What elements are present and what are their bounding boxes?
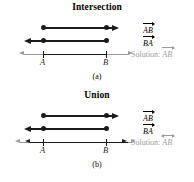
- overarrow-right-icon: [143, 23, 155, 24]
- point-b-dot: [104, 113, 109, 118]
- point-label-a: A: [40, 57, 45, 67]
- solution-arrowhead-left-icon: [25, 139, 30, 143]
- label-ray-ab: AB: [143, 114, 153, 123]
- label-ray-ba-text: BA: [143, 127, 153, 136]
- label-ray-ba-text: BA: [143, 39, 153, 48]
- solution-segment-ab: [43, 54, 106, 55]
- panel-intersection: Intersection A B AB BA Solution: AB (a): [0, 0, 194, 91]
- ray-ba-arrowhead-left-icon: [24, 38, 31, 44]
- segment-ab-glyph: AB: [162, 51, 172, 59]
- solution-arrowhead-left-outer-icon: [15, 139, 20, 143]
- point-b-dot: [104, 25, 109, 30]
- overarrow-right-icon: [143, 36, 155, 37]
- label-ray-ab-text: AB: [143, 114, 153, 123]
- label-solution: Solution: AB: [131, 138, 172, 147]
- point-a-dot: [41, 113, 46, 118]
- label-ray-ba: BA: [143, 127, 153, 136]
- point-a-dot: [41, 25, 46, 30]
- ray-ab-arrowhead-right-icon: [112, 113, 119, 119]
- double-arrow-icon: [162, 135, 174, 136]
- label-solution-text: AB: [162, 138, 172, 147]
- point-a-dot: [41, 126, 46, 131]
- panel-caption-b: (b): [0, 160, 194, 169]
- diagram-row-ray-ab: [0, 22, 194, 34]
- solution-prefix-text: Solution:: [131, 50, 160, 59]
- vector-ba-glyph: BA: [143, 40, 153, 48]
- diagram-row-ray-ba: [0, 123, 194, 135]
- label-ray-ba: BA: [143, 39, 153, 48]
- overbar-icon: [162, 47, 174, 48]
- line-ab-glyph: AB: [162, 139, 172, 147]
- panel-caption-a: (a): [0, 72, 194, 81]
- vector-ab-glyph: AB: [143, 115, 153, 123]
- solution-arrowhead-right-icon: [122, 139, 127, 143]
- point-b-dot: [104, 126, 109, 131]
- label-solution: Solution: AB: [131, 50, 172, 59]
- overarrow-right-icon: [143, 124, 155, 125]
- point-a-dot: [41, 38, 46, 43]
- label-ray-ab-text: AB: [143, 26, 153, 35]
- panel-title-union: Union: [0, 90, 194, 100]
- diagram-row-ray-ab: [0, 110, 194, 122]
- point-b-dot: [104, 38, 109, 43]
- point-label-b: B: [103, 57, 108, 67]
- panel-title-intersection: Intersection: [0, 2, 194, 12]
- point-label-b: B: [103, 145, 108, 155]
- vector-ba-glyph: BA: [143, 128, 153, 136]
- overarrow-right-icon: [143, 111, 155, 112]
- diagram-row-ray-ba: [0, 35, 194, 47]
- vector-ab-glyph: AB: [143, 27, 153, 35]
- label-solution-text: AB: [162, 50, 172, 59]
- panel-union: Union A B AB BA Solution: AB (b): [0, 88, 194, 182]
- solution-prefix-text: Solution:: [131, 138, 160, 147]
- solution-arrowhead-left-icon: [19, 51, 24, 55]
- point-label-a: A: [40, 145, 45, 155]
- ray-ab-arrowhead-right-icon: [112, 25, 119, 31]
- solution-line-ab: [30, 142, 128, 143]
- ray-ba-arrowhead-left-icon: [24, 126, 31, 132]
- label-ray-ab: AB: [143, 26, 153, 35]
